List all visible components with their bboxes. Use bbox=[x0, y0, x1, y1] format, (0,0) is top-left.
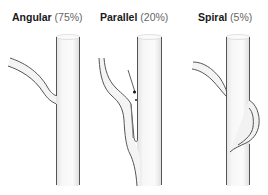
parallel-vessel bbox=[99, 35, 162, 187]
spiral-vessel bbox=[192, 35, 259, 187]
vessel-diagram: Angular (75%) Parallel (20%) Spiral (5%) bbox=[0, 0, 268, 195]
vessel-illustrations bbox=[0, 0, 268, 195]
angular-vessel bbox=[8, 35, 80, 187]
